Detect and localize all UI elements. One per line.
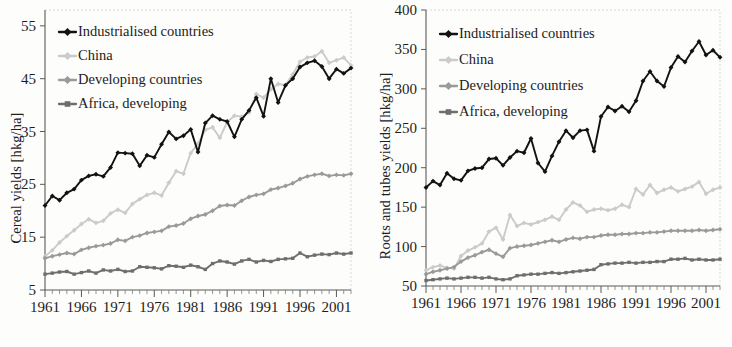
chart-panel-cereal-yields: Cereal yields [hkg/ha] 51525354555196119… bbox=[0, 0, 366, 347]
x-tick-label: 1981 bbox=[176, 299, 206, 315]
x-tick-label: 1996 bbox=[285, 299, 316, 315]
legend-marker-china bbox=[63, 52, 71, 60]
series-africa-developing bbox=[424, 257, 721, 282]
x-tick-label: 1981 bbox=[551, 295, 581, 311]
y-tick-label: 25 bbox=[21, 176, 36, 192]
y-tick-label: 300 bbox=[395, 81, 418, 97]
legend-label-developing: Developing countries bbox=[459, 77, 584, 93]
x-tick-label: 1961 bbox=[411, 295, 441, 311]
legend-item-china[interactable]: China bbox=[440, 51, 494, 67]
legend-item-developing[interactable]: Developing countries bbox=[440, 77, 584, 93]
figure-container: Cereal yields [hkg/ha] 51525354555196119… bbox=[0, 0, 732, 347]
legend-label-china: China bbox=[78, 47, 113, 63]
y-tick-label: 35 bbox=[21, 124, 36, 140]
legend: Industrialised countriesChinaDeveloping … bbox=[59, 23, 214, 111]
y-tick-label: 50 bbox=[402, 278, 417, 294]
x-tick-label: 1986 bbox=[212, 299, 243, 315]
chart-panel-roots-tubes-yields: Roots and tubes yields [hkg/ha] 50100150… bbox=[366, 0, 732, 347]
legend-marker-industrialised bbox=[444, 30, 452, 38]
series-africa-developing bbox=[43, 251, 352, 276]
legend-item-industrialised[interactable]: Industrialised countries bbox=[440, 25, 595, 41]
x-tick-label: 1971 bbox=[481, 295, 511, 311]
legend-marker-developing bbox=[444, 82, 452, 90]
legend-item-developing[interactable]: Developing countries bbox=[59, 71, 203, 87]
legend-marker-developing bbox=[63, 76, 71, 84]
y-tick-label: 100 bbox=[395, 239, 418, 255]
legend-item-africa[interactable]: Africa, developing bbox=[440, 103, 568, 119]
series-developing-countries bbox=[43, 171, 354, 260]
x-tick-label: 1991 bbox=[249, 299, 279, 315]
legend-label-industrialised: Industrialised countries bbox=[78, 23, 214, 39]
plot-area-roots: 5010015020025030035040019611966197119761… bbox=[426, 10, 724, 312]
x-tick-label: 2001 bbox=[321, 299, 351, 315]
plot-area-cereal: 5152535455519611966197119761981198619911… bbox=[45, 10, 355, 316]
cereal-yields-svg: 5152535455519611966197119761981198619911… bbox=[45, 10, 355, 316]
x-tick-label: 1971 bbox=[103, 299, 133, 315]
y-tick-label: 350 bbox=[395, 41, 418, 57]
y-axis-label-roots: Roots and tubes yields [hkg/ha] bbox=[377, 73, 394, 260]
legend-label-africa: Africa, developing bbox=[78, 95, 187, 111]
legend: Industrialised countriesChinaDeveloping … bbox=[440, 25, 595, 119]
legend-label-developing: Developing countries bbox=[78, 71, 203, 87]
y-tick-label: 5 bbox=[29, 282, 37, 298]
legend-marker-industrialised bbox=[63, 28, 71, 36]
x-tick-label: 1961 bbox=[30, 299, 60, 315]
y-tick-label: 15 bbox=[21, 229, 36, 245]
legend-item-africa[interactable]: Africa, developing bbox=[59, 95, 187, 111]
legend-label-africa: Africa, developing bbox=[459, 103, 568, 119]
x-tick-label: 1991 bbox=[621, 295, 651, 311]
legend-label-industrialised: Industrialised countries bbox=[459, 25, 595, 41]
legend-marker-africa bbox=[446, 109, 452, 115]
y-tick-label: 400 bbox=[395, 2, 418, 18]
y-tick-label: 250 bbox=[395, 120, 418, 136]
x-tick-label: 1976 bbox=[516, 295, 547, 311]
x-tick-label: 1966 bbox=[66, 299, 97, 315]
legend-marker-africa bbox=[65, 101, 71, 107]
y-tick-label: 150 bbox=[395, 199, 418, 215]
y-tick-label: 200 bbox=[395, 160, 418, 176]
legend-item-industrialised[interactable]: Industrialised countries bbox=[59, 23, 214, 39]
legend-label-china: China bbox=[459, 51, 494, 67]
roots-tubes-yields-svg: 5010015020025030035040019611966197119761… bbox=[426, 10, 724, 312]
x-tick-label: 1996 bbox=[656, 295, 687, 311]
y-tick-label: 55 bbox=[21, 18, 36, 34]
legend-item-china[interactable]: China bbox=[59, 47, 113, 63]
x-tick-label: 1976 bbox=[139, 299, 170, 315]
x-tick-label: 1986 bbox=[586, 295, 617, 311]
legend-marker-china bbox=[444, 56, 452, 64]
y-tick-label: 45 bbox=[21, 71, 36, 87]
x-tick-label: 1966 bbox=[446, 295, 477, 311]
x-tick-label: 2001 bbox=[691, 295, 721, 311]
